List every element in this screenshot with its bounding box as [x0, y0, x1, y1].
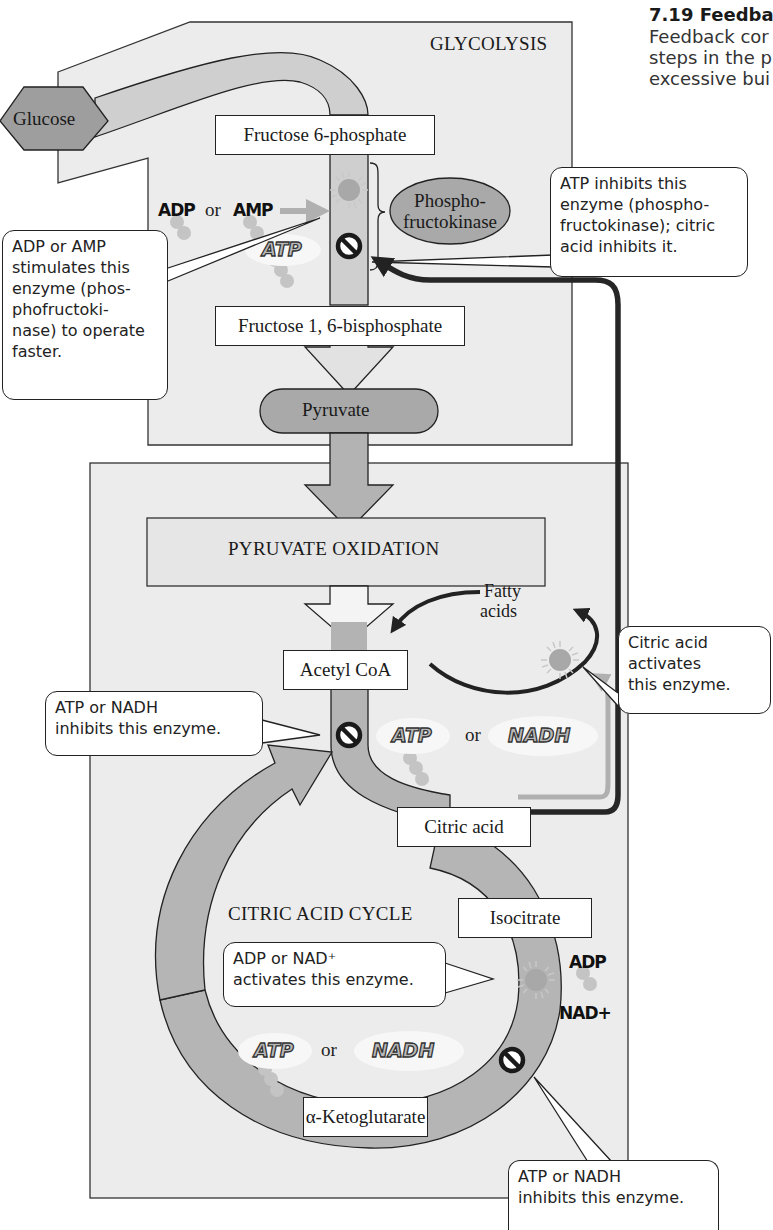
isocitrate-box: Isocitrate — [458, 898, 592, 938]
nad-plus-effector: NAD+ — [559, 1003, 611, 1023]
callout-line: ADP or NAD⁺ — [233, 948, 436, 969]
fatty-acids-label-line1: Fatty — [484, 581, 521, 602]
or-text: or — [321, 1039, 337, 1061]
callout-line: acid inhibits it. — [560, 236, 738, 257]
adp-effector: ADP — [158, 200, 195, 220]
callout-line: activates this enzyme. — [233, 969, 436, 990]
acetyl-coa-label: Acetyl CoA — [300, 659, 391, 681]
callout-line: inhibits this enzyme. — [518, 1187, 709, 1208]
pfk-label-line2: fructokinase — [403, 211, 497, 232]
fructose-6-phosphate-box: Fructose 6-phosphate — [215, 115, 435, 155]
atp-effector: ATP — [392, 724, 432, 746]
callout-line: phofructoki- — [12, 299, 158, 320]
alpha-ketoglutarate-label: α-Ketoglutarate — [306, 1106, 426, 1128]
citric-acid-box: Citric acid — [397, 807, 531, 847]
figure-caption-line: Feedback cor — [649, 26, 769, 47]
pfk-label-line1: Phospho- — [403, 190, 497, 211]
fructose-6-phosphate-label: Fructose 6-phosphate — [243, 124, 406, 146]
fructose-16-bisphosphate-label: Fructose 1, 6-bisphosphate — [238, 315, 442, 337]
callout-line: ATP or NADH — [518, 1166, 709, 1187]
callout-line: nase) to operate — [12, 320, 158, 341]
callout-line: this enzyme. — [628, 674, 761, 695]
atp-effector: ATP — [262, 238, 302, 260]
section-title-glycolysis: GLYCOLYSIS — [430, 33, 547, 55]
callout-atp-nadh-inhibits-pdh: ATP or NADH inhibits this enzyme. — [45, 691, 263, 756]
nadh-effector: NADH — [372, 1039, 434, 1061]
alpha-ketoglutarate-box: α-Ketoglutarate — [303, 1097, 428, 1137]
adp-effector: ADP — [569, 952, 606, 972]
callout-line: enzyme (phos- — [12, 278, 158, 299]
fatty-acids-label-line2: acids — [480, 601, 517, 622]
or-text: or — [465, 724, 481, 746]
callout-atp-nadh-inhibits-akg: ATP or NADH inhibits this enzyme. — [508, 1160, 719, 1230]
citric-acid-label: Citric acid — [424, 816, 504, 838]
callout-line: inhibits this enzyme. — [55, 718, 253, 739]
callout-line: faster. — [12, 341, 158, 362]
callout-line: enzyme (phospho- — [560, 194, 738, 215]
pyruvate-label: Pyruvate — [302, 399, 370, 421]
callout-line: fructokinase); citric — [560, 215, 738, 236]
callout-adp-nad-activates: ADP or NAD⁺ activates this enzyme. — [223, 942, 446, 1007]
callout-line: ATP inhibits this — [560, 173, 738, 194]
figure-caption-line: steps in the p — [649, 47, 772, 68]
section-title-citric-acid-cycle: CITRIC ACID CYCLE — [228, 903, 413, 925]
callout-atp-inhibits-pfk: ATP inhibits this enzyme (phospho- fruct… — [550, 167, 748, 277]
section-title-pyruvate-oxidation: PYRUVATE OXIDATION — [228, 538, 439, 560]
nadh-effector: NADH — [508, 724, 570, 746]
glucose-label: Glucose — [13, 108, 75, 130]
figure-caption-title: 7.19 Feedba — [649, 4, 773, 25]
fructose-16-bisphosphate-box: Fructose 1, 6-bisphosphate — [215, 306, 465, 346]
isocitrate-label: Isocitrate — [490, 907, 561, 929]
callout-adp-amp-stimulates: ADP or AMP stimulates this enzyme (phos-… — [2, 230, 168, 400]
figure-caption-line: excessive bui — [649, 68, 770, 89]
callout-citric-acid-activates: Citric acid activates this enzyme. — [618, 626, 771, 714]
or-text: or — [205, 199, 221, 221]
callout-line: stimulates this — [12, 257, 158, 278]
callout-line: ATP or NADH — [55, 697, 253, 718]
callout-line: activates — [628, 653, 761, 674]
callout-line: ADP or AMP — [12, 236, 158, 257]
atp-effector: ATP — [254, 1039, 294, 1061]
callout-line: Citric acid — [628, 632, 761, 653]
amp-effector: AMP — [233, 200, 273, 220]
acetyl-coa-box: Acetyl CoA — [283, 650, 408, 690]
pfk-label: Phospho-fructokinase — [390, 178, 510, 244]
